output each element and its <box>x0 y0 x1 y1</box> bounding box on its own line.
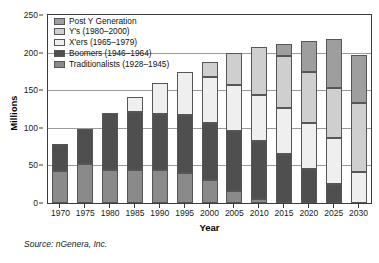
bar-segment <box>77 164 93 203</box>
bar-segment <box>226 53 242 85</box>
bar-segment <box>152 170 168 203</box>
y-axis-tick-label: 0 <box>33 199 38 208</box>
bar-2020 <box>301 15 317 203</box>
bar-segment <box>202 123 218 180</box>
bar-segment <box>52 144 68 170</box>
bar-segment <box>226 131 242 191</box>
legend-item: Boomers (1946–1964) <box>54 48 192 58</box>
bar-segment <box>52 171 68 203</box>
x-axis-tick-label: 2030 <box>349 209 368 218</box>
legend-item-label: Y's (1980–2000) <box>69 27 130 36</box>
bar-segment <box>276 56 292 107</box>
bar-segment <box>177 72 193 115</box>
bar-segment <box>276 154 292 203</box>
x-axis-title: Year <box>47 222 372 233</box>
x-axis-tick-label: 2000 <box>200 209 219 218</box>
bar-segment <box>326 88 342 138</box>
x-axis-tick-label: 2020 <box>299 209 318 218</box>
bar-2005 <box>226 15 242 203</box>
bar-segment <box>326 39 342 88</box>
y-axis-tick-label: 50 <box>29 161 38 170</box>
x-axis-tick-label: 1980 <box>101 209 120 218</box>
x-axis-tick-label: 1970 <box>51 209 70 218</box>
bar-segment <box>226 191 242 203</box>
bar-segment <box>127 97 143 112</box>
bar-2000 <box>202 15 218 203</box>
bar-2025 <box>326 15 342 203</box>
bar-segment <box>127 170 143 203</box>
legend-item: Post Y Generation <box>54 16 192 26</box>
bar-segment <box>351 55 367 103</box>
y-axis-tick-mark <box>39 52 43 53</box>
legend-item-label: X'ers (1965–1979) <box>69 38 137 47</box>
x-axis-tick-label: 2005 <box>225 209 244 218</box>
bar-segment <box>202 77 218 123</box>
y-axis-tick-mark <box>39 90 43 91</box>
bar-segment <box>276 108 292 155</box>
legend-swatch-icon <box>54 39 65 46</box>
bar-segment <box>202 62 218 77</box>
y-axis-tick-mark <box>39 203 43 204</box>
bar-segment <box>102 113 118 170</box>
legend-item: Traditionalists (1928–1945) <box>54 59 192 69</box>
bar-segment <box>102 170 118 203</box>
bar-segment <box>301 123 317 169</box>
legend-swatch-icon <box>54 28 65 35</box>
x-axis-tick-label: 1990 <box>150 209 169 218</box>
bar-2030 <box>351 15 367 203</box>
bar-segment <box>251 95 267 142</box>
bar-segment <box>351 172 367 203</box>
legend-item-label: Post Y Generation <box>69 17 137 26</box>
y-axis-tick-label: 200 <box>24 48 38 57</box>
legend-item: X'ers (1965–1979) <box>54 38 192 48</box>
bar-segment <box>326 138 342 184</box>
bar-segment <box>251 141 267 198</box>
bar-segment <box>301 41 317 73</box>
bar-segment <box>326 184 342 203</box>
y-axis-tick-mark <box>39 15 43 16</box>
bar-2015 <box>276 15 292 203</box>
y-axis-tick-mark <box>39 127 43 128</box>
bar-segment <box>251 47 267 95</box>
bar-segment <box>152 83 168 113</box>
bar-segment <box>251 199 267 204</box>
y-axis-tick-mark <box>39 165 43 166</box>
legend-swatch-icon <box>54 18 65 25</box>
legend-item-label: Boomers (1946–1964) <box>69 49 152 58</box>
legend-swatch-icon <box>54 61 65 68</box>
bar-segment <box>351 103 367 172</box>
x-axis-tick-label: 2025 <box>324 209 343 218</box>
bar-segment <box>177 115 193 173</box>
legend: Post Y GenerationY's (1980–2000)X'ers (1… <box>54 16 192 70</box>
x-axis-tick-label: 1975 <box>76 209 95 218</box>
y-axis-tick-label: 250 <box>24 11 38 20</box>
x-axis-tick-label: 2010 <box>250 209 269 218</box>
bar-2010 <box>251 15 267 203</box>
y-axis-tick-label: 100 <box>24 124 38 133</box>
x-axis-tick-label: 1985 <box>125 209 144 218</box>
legend-item: Y's (1980–2000) <box>54 27 192 37</box>
bar-segment <box>276 44 292 57</box>
bar-segment <box>152 114 168 170</box>
stacked-bar-chart-figure: 050100150200250 Millions Year Post Y Gen… <box>0 0 379 263</box>
y-axis-title: Millions <box>9 83 19 143</box>
legend-swatch-icon <box>54 50 65 57</box>
y-axis-tick-label: 150 <box>24 86 38 95</box>
bar-segment <box>301 72 317 123</box>
x-axis-tick-label: 2015 <box>275 209 294 218</box>
legend-item-label: Traditionalists (1928–1945) <box>69 60 169 69</box>
bar-segment <box>77 129 93 164</box>
bar-segment <box>127 112 143 170</box>
bar-segment <box>301 169 317 203</box>
bar-segment <box>177 173 193 203</box>
source-note: Source: nGenera, Inc. <box>24 239 107 249</box>
bar-segment <box>202 180 218 203</box>
x-axis-tick-label: 1995 <box>175 209 194 218</box>
bar-segment <box>226 85 242 131</box>
